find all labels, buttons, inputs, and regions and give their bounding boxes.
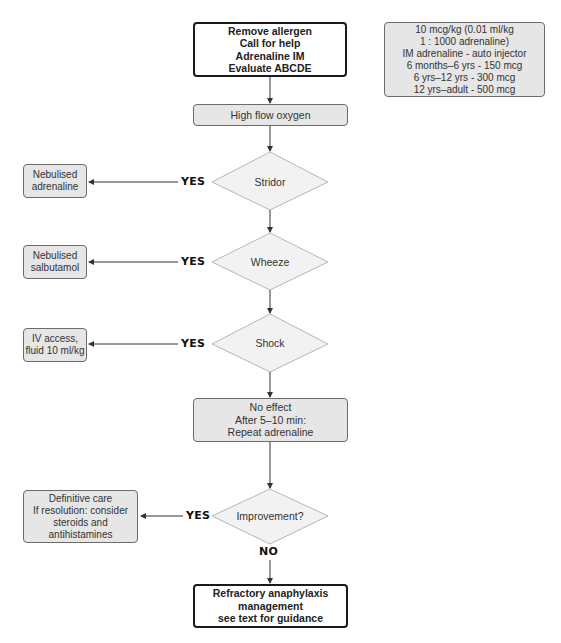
action-line: Nebulised xyxy=(33,169,77,181)
refractory-line: Refractory anaphylaxis xyxy=(213,587,329,600)
stridor-yes-label: YES xyxy=(181,175,205,188)
dosing-info-box: 10 mcg/kg (0.01 ml/kg 1 : 1000 adrenalin… xyxy=(384,22,545,97)
action-line: adrenaline xyxy=(32,181,79,193)
nebulised-adrenaline-box: Nebulised adrenaline xyxy=(23,164,87,198)
start-box-line: Remove allergen xyxy=(228,25,312,38)
refractory-line: see text for guidance xyxy=(218,612,323,625)
oxygen-box: High flow oxygen xyxy=(193,104,348,126)
shock-yes-label: YES xyxy=(181,337,205,350)
dosing-line: 6 yrs–12 yrs - 300 mcg xyxy=(414,72,516,84)
action-line: salbutamol xyxy=(31,262,79,274)
shock-label: Shock xyxy=(255,337,284,349)
action-line: fluid 10 ml/kg xyxy=(26,345,85,357)
wheeze-label: Wheeze xyxy=(251,256,290,268)
no-effect-line: No effect xyxy=(250,401,292,414)
dosing-line: IM adrenaline - auto injector xyxy=(403,48,527,60)
oxygen-label: High flow oxygen xyxy=(231,109,311,122)
anaphylaxis-flowchart: Remove allergen Call for help Adrenaline… xyxy=(0,0,561,643)
no-effect-line: Repeat adrenaline xyxy=(228,426,314,439)
start-box: Remove allergen Call for help Adrenaline… xyxy=(193,22,347,77)
start-box-line: Call for help xyxy=(240,37,301,50)
improvement-label: Improvement? xyxy=(236,510,303,522)
action-line: IV access, xyxy=(32,333,78,345)
improvement-yes-label: YES xyxy=(186,509,210,522)
wheeze-yes-label: YES xyxy=(181,255,205,268)
dosing-line: 1 : 1000 adrenaline) xyxy=(420,36,509,48)
no-effect-line: After 5–10 min: xyxy=(235,414,306,427)
refractory-line: management xyxy=(238,600,303,613)
definitive-care-line: Definitive care xyxy=(49,493,112,505)
dosing-line: 6 months–6 yrs - 150 mcg xyxy=(407,60,523,72)
action-line: Nebulised xyxy=(33,250,77,262)
start-box-line: Adrenaline IM xyxy=(236,50,305,63)
definitive-care-line: If resolution: consider xyxy=(33,505,128,517)
refractory-box: Refractory anaphylaxis management see te… xyxy=(193,584,348,628)
nebulised-salbutamol-box: Nebulised salbutamol xyxy=(23,245,87,279)
no-effect-box: No effect After 5–10 min: Repeat adrenal… xyxy=(193,398,348,442)
definitive-care-box: Definitive care If resolution: consider … xyxy=(23,490,138,543)
definitive-care-line: steroids and xyxy=(53,517,107,529)
start-box-line: Evaluate ABCDE xyxy=(228,62,311,75)
iv-access-box: IV access, fluid 10 ml/kg xyxy=(23,328,87,362)
dosing-line: 10 mcg/kg (0.01 ml/kg xyxy=(415,24,513,36)
definitive-care-line: antihistamines xyxy=(49,529,113,541)
dosing-line: 12 yrs–adult - 500 mcg xyxy=(414,84,516,96)
stridor-label: Stridor xyxy=(255,176,286,188)
improvement-no-label: NO xyxy=(259,545,278,558)
